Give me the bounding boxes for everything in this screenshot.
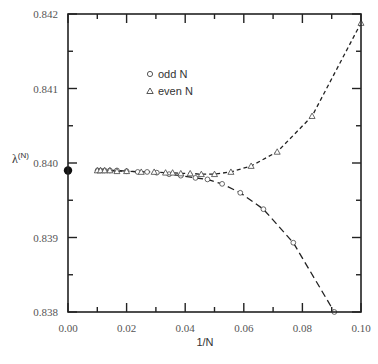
even-N-curve — [97, 23, 361, 174]
x-tick-label: 0.04 — [176, 322, 196, 334]
y-axis-title: λ(N) — [12, 151, 29, 166]
x-tick-label: 0.02 — [117, 322, 136, 334]
y-tick-label: 0.840 — [33, 157, 58, 169]
even-n-point — [309, 113, 315, 118]
y-tick-label: 0.839 — [33, 232, 58, 244]
legend-odd-label: odd N — [158, 68, 187, 80]
x-tick-label: 0.08 — [293, 322, 313, 334]
odd-n-point — [238, 190, 243, 195]
odd-N-curve — [98, 170, 335, 312]
chart: 0.000.020.040.060.080.100.8380.8390.8400… — [0, 0, 378, 364]
odd-n-point — [145, 170, 150, 175]
axis-ticks — [68, 14, 361, 312]
x-axis-title: 1/N — [196, 336, 213, 348]
y-tick-label: 0.841 — [33, 83, 58, 95]
x-tick-label: 0.10 — [351, 322, 371, 334]
odd-n-point — [205, 177, 210, 182]
legend-odd-marker-icon — [147, 71, 152, 76]
even-n-point — [187, 170, 193, 175]
data-curves — [97, 23, 361, 312]
y-axis-title-sup: (N) — [18, 151, 29, 160]
legend-even-marker-icon — [147, 88, 153, 94]
plot-frame — [68, 14, 361, 312]
even-n-point — [274, 149, 280, 154]
even-n-point — [248, 163, 254, 168]
odd-n-point — [291, 240, 296, 245]
data-markers — [64, 20, 364, 314]
x-tick-label: 0.00 — [58, 322, 78, 334]
odd-n-point — [261, 207, 266, 212]
legend-even-label: even N — [158, 85, 193, 97]
tick-labels: 0.000.020.040.060.080.100.8380.8390.8400… — [33, 8, 371, 334]
odd-n-point — [220, 181, 225, 186]
legend: odd N even N — [147, 68, 193, 97]
x-tick-label: 0.06 — [234, 322, 254, 334]
y-tick-label: 0.842 — [33, 8, 58, 20]
y-tick-label: 0.838 — [33, 306, 58, 318]
